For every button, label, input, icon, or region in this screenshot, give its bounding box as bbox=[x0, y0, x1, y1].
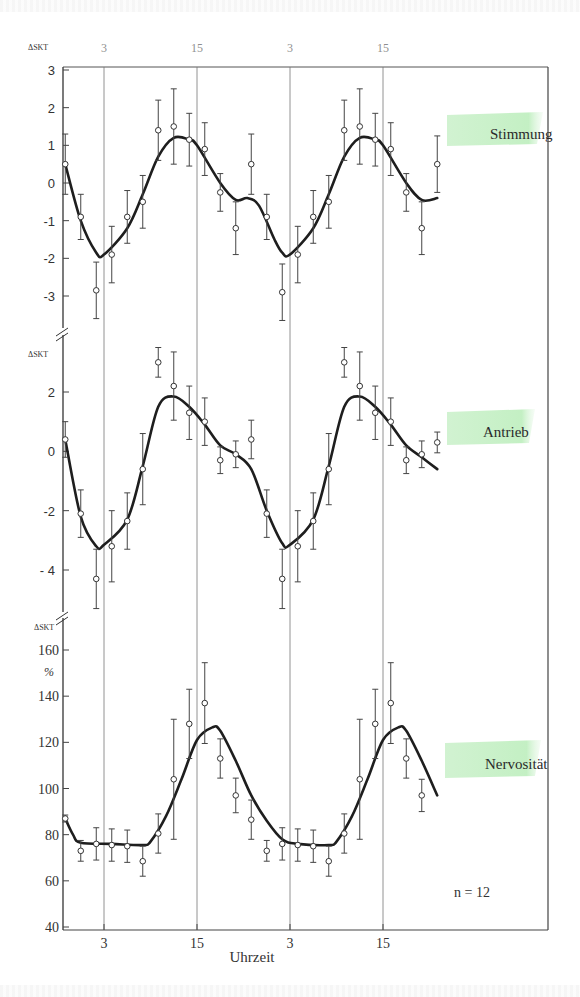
data-point bbox=[78, 214, 84, 220]
data-point-group bbox=[171, 719, 177, 839]
data-point-group bbox=[419, 202, 425, 255]
x-axis-label: Uhrzeit bbox=[230, 949, 276, 965]
data-point-group bbox=[202, 398, 208, 445]
data-point-group bbox=[310, 191, 316, 244]
data-point-group bbox=[295, 226, 301, 283]
data-point-group bbox=[202, 123, 208, 176]
data-point bbox=[202, 146, 208, 152]
data-point-group bbox=[93, 549, 99, 608]
data-point-group bbox=[109, 511, 115, 582]
data-point-group bbox=[419, 779, 425, 811]
x-tick-label: 15 bbox=[376, 936, 390, 951]
data-point bbox=[372, 410, 378, 416]
data-point-group bbox=[171, 352, 177, 420]
data-point-group bbox=[109, 226, 115, 283]
data-point bbox=[434, 440, 440, 446]
data-point bbox=[295, 543, 301, 549]
data-point-group bbox=[186, 113, 192, 166]
data-point bbox=[264, 511, 270, 517]
data-point bbox=[78, 511, 84, 517]
data-point-group bbox=[140, 175, 146, 228]
data-point-group bbox=[295, 829, 301, 861]
data-point-group bbox=[419, 441, 425, 468]
data-point bbox=[124, 214, 130, 220]
y-tick-label: 2 bbox=[48, 385, 55, 400]
data-point bbox=[78, 848, 84, 854]
data-point-group bbox=[310, 830, 316, 862]
data-point bbox=[202, 419, 208, 425]
y-tick-label: 140 bbox=[38, 689, 59, 704]
data-point-group bbox=[78, 194, 84, 239]
data-point-group bbox=[78, 490, 84, 537]
y-tick-label: 0 bbox=[48, 444, 55, 459]
data-point bbox=[310, 214, 316, 220]
y-tick-label: 160 bbox=[38, 643, 59, 658]
data-point bbox=[341, 360, 347, 366]
data-point bbox=[124, 843, 130, 849]
panels: 3210-1-2-3ΔSKTStimmung20-2- 4ΔSKTAntrieb… bbox=[28, 43, 553, 935]
data-point-group bbox=[264, 490, 270, 537]
data-point bbox=[155, 831, 161, 837]
y-axis-label: ΔSKT bbox=[28, 43, 48, 52]
data-point bbox=[186, 721, 192, 727]
data-point bbox=[403, 756, 409, 762]
sample-size-note: n = 12 bbox=[454, 885, 490, 900]
data-point bbox=[109, 543, 115, 549]
data-point bbox=[248, 161, 254, 167]
y-tick-label: 3 bbox=[48, 63, 55, 78]
data-point-group bbox=[372, 386, 378, 439]
data-point bbox=[279, 576, 285, 582]
data-point-group bbox=[388, 398, 394, 445]
data-point bbox=[279, 841, 285, 847]
data-point bbox=[171, 383, 177, 389]
y-tick-label: 80 bbox=[45, 828, 59, 843]
data-point bbox=[171, 124, 177, 130]
y-tick-label: - 4 bbox=[40, 563, 55, 578]
data-point bbox=[186, 410, 192, 416]
data-point-group bbox=[372, 113, 378, 166]
data-point-group bbox=[279, 549, 285, 608]
data-point bbox=[403, 190, 409, 196]
data-point bbox=[233, 452, 239, 458]
data-point bbox=[388, 419, 394, 425]
data-point-group bbox=[341, 348, 347, 378]
data-point-group bbox=[326, 434, 332, 505]
data-point-group bbox=[124, 493, 130, 549]
x-tick-label-top: 15 bbox=[377, 41, 389, 55]
data-point-group bbox=[62, 815, 68, 822]
data-point bbox=[419, 452, 425, 458]
y-tick-label: -1 bbox=[43, 214, 55, 229]
data-point bbox=[217, 756, 223, 762]
data-point bbox=[341, 831, 347, 837]
data-point-group bbox=[326, 846, 332, 876]
data-point bbox=[310, 843, 316, 849]
y-tick-label: 60 bbox=[45, 874, 59, 889]
data-point-group bbox=[434, 136, 440, 193]
data-point-group bbox=[403, 447, 409, 474]
data-point-group bbox=[341, 814, 347, 853]
data-point-group bbox=[155, 348, 161, 378]
data-point-group bbox=[279, 828, 285, 860]
y-tick-label: 40 bbox=[45, 920, 59, 935]
data-point-group bbox=[434, 432, 440, 453]
data-point-group bbox=[171, 89, 177, 164]
series-label: Stimmung bbox=[490, 126, 553, 142]
y-tick-label: -3 bbox=[43, 289, 55, 304]
data-point-group bbox=[233, 202, 239, 255]
data-point bbox=[357, 383, 363, 389]
data-point-group bbox=[264, 840, 270, 861]
data-point bbox=[233, 793, 239, 799]
x-tick-label: 3 bbox=[101, 936, 108, 951]
data-point-group bbox=[124, 191, 130, 244]
data-point bbox=[140, 858, 146, 864]
data-point bbox=[326, 199, 332, 205]
x-tick-label-top: 15 bbox=[191, 41, 203, 55]
data-point bbox=[419, 225, 425, 231]
data-point bbox=[93, 576, 99, 582]
data-point bbox=[372, 137, 378, 143]
data-point bbox=[326, 858, 332, 864]
data-point bbox=[295, 842, 301, 848]
data-point bbox=[403, 457, 409, 463]
data-point-group bbox=[357, 719, 363, 839]
data-point-group bbox=[295, 511, 301, 582]
